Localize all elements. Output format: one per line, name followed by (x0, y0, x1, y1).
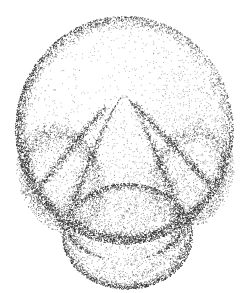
illustration-figure (0, 0, 248, 293)
stipple-illustration-canvas (0, 0, 248, 293)
